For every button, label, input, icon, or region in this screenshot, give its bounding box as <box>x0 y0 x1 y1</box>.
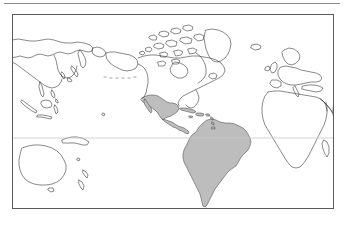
map-contents <box>12 14 334 209</box>
figure-root: Latin America and the Caribbean Equator <box>0 0 347 227</box>
island-hispaniola <box>196 113 204 116</box>
island-puerto-rico <box>206 114 210 116</box>
island-trinidad <box>212 127 215 129</box>
world-map-figure <box>0 0 347 227</box>
